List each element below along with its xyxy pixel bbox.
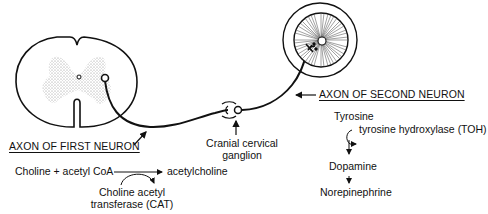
tyrosine-label: Tyrosine xyxy=(334,110,374,122)
cat-enzyme-line2: transferase (CAT) xyxy=(82,198,182,210)
axon-second-neuron xyxy=(242,50,308,110)
toh-curved-arrow xyxy=(347,130,356,144)
ach-substrate: Choline + acetyl CoA xyxy=(15,165,113,177)
cat-curved-arrow xyxy=(121,174,154,185)
eye xyxy=(283,3,357,77)
central-canal xyxy=(77,75,81,79)
ach-product: acetylcholine xyxy=(167,165,228,177)
toh-enzyme-label: tyrosine hydroxylase (TOH) xyxy=(359,123,487,135)
axon-first-neuron-label: AXON OF FIRST NEURON xyxy=(9,140,140,152)
axon-second-neuron-label: AXON OF SECOND NEURON xyxy=(319,88,465,100)
neuron-pathway-diagram xyxy=(0,0,488,214)
ganglion-label-line2: ganglion xyxy=(200,149,284,161)
first-neuron-cell-body xyxy=(102,75,109,82)
norepinephrine-label: Norepinephrine xyxy=(320,186,392,198)
ganglion-cell-body xyxy=(235,107,242,114)
pupil xyxy=(318,37,326,45)
ganglion-label: Cranial cervical ganglion xyxy=(200,137,284,161)
grey-matter xyxy=(42,57,111,104)
axon-first-neuron xyxy=(105,81,228,127)
cat-enzyme-label: Choline acetyl transferase (CAT) xyxy=(82,186,182,210)
cat-enzyme-line1: Choline acetyl xyxy=(82,186,182,198)
dopamine-label: Dopamine xyxy=(329,160,377,172)
ganglion-label-line1: Cranial cervical xyxy=(200,137,284,149)
